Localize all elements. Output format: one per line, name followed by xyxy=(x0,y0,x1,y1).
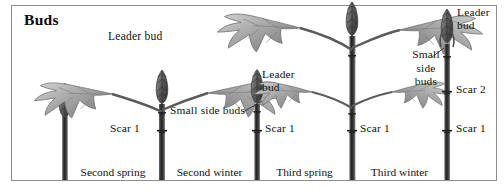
plant-stem-5 xyxy=(440,9,454,180)
annotation-small-side-buds-2-line2: side xyxy=(416,62,435,74)
annotation-small-side-buds-1: Small side buds xyxy=(170,104,245,116)
scar-label-5: Scar 1 xyxy=(456,122,486,134)
season-label-third-winter: Third winter xyxy=(352,166,447,178)
annotation-leader-bud-2: Leaderbud xyxy=(262,68,295,94)
scar-label-4: Scar 2 xyxy=(456,83,486,95)
season-label-second-spring: Second spring xyxy=(65,166,161,178)
scar-label-1: Scar 1 xyxy=(110,122,140,134)
annotation-leader-bud-3: Leaderbud xyxy=(457,6,490,32)
annotation-leader-bud-2-line2: bud xyxy=(262,81,280,93)
annotation-small-side-buds-2-line3: buds xyxy=(415,75,437,87)
scar-label-3: Scar 1 xyxy=(360,122,390,134)
annotation-leader-bud-2-line1: Leader xyxy=(262,68,295,80)
annotation-small-side-buds-2: Smallsidebuds xyxy=(404,48,448,89)
annotation-leader-bud-3-line1: Leader xyxy=(457,6,490,18)
annotation-leader-bud-3-line2: bud xyxy=(457,19,475,31)
season-label-second-winter: Second winter xyxy=(162,166,257,178)
annotation-leader-bud-1: Leader bud xyxy=(108,30,162,43)
plant-stem-2 xyxy=(32,70,287,180)
buds-figure: Buds xyxy=(0,0,504,195)
annotation-small-side-buds-2-line1: Small xyxy=(412,48,440,60)
scar-label-2: Scar 1 xyxy=(265,122,295,134)
season-label-third-spring: Third spring xyxy=(257,166,352,178)
